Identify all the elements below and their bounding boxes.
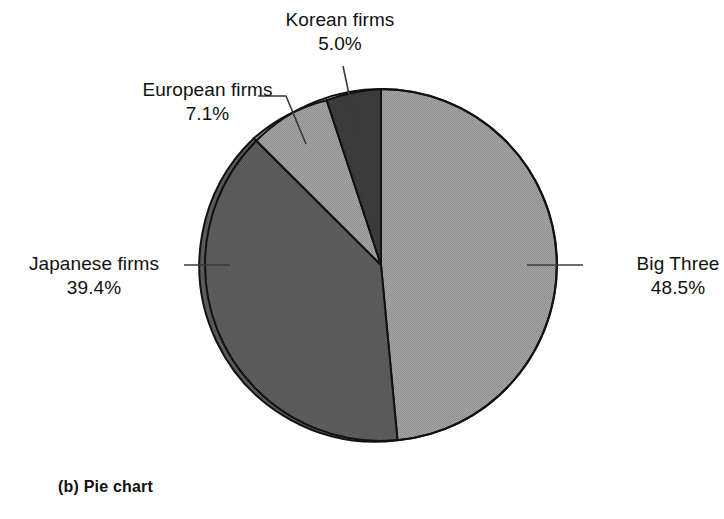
pie-label-korean-firms-value: 5.0% — [240, 32, 440, 56]
pie-label-big-three-value: 48.5% — [588, 276, 724, 300]
pie-label-japanese-firms-name: Japanese firms — [10, 252, 178, 276]
pie-label-korean-firms-name: Korean firms — [240, 8, 440, 32]
pie-label-european-firms-value: 7.1% — [110, 102, 305, 126]
pie-label-japanese-firms-value: 39.4% — [10, 276, 178, 300]
pie-label-korean-firms: Korean firms 5.0% — [240, 8, 440, 57]
pie-label-japanese-firms: Japanese firms 39.4% — [10, 252, 178, 301]
pie-label-big-three-name: Big Three — [588, 252, 724, 276]
pie-label-european-firms: European firms 7.1% — [110, 78, 305, 127]
pie-label-big-three: Big Three 48.5% — [588, 252, 724, 301]
pie-label-european-firms-name: European firms — [110, 78, 305, 102]
figure-caption: (b) Pie chart — [58, 478, 153, 496]
